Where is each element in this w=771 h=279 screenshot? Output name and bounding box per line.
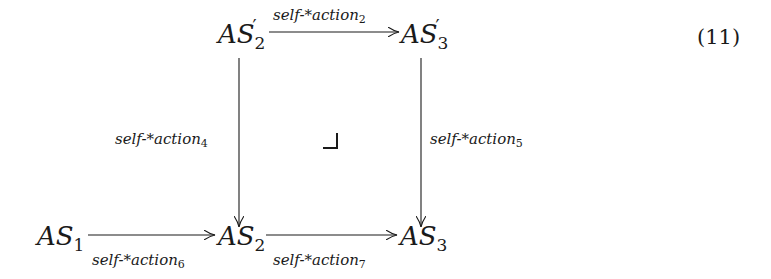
node-base: AS	[218, 221, 255, 251]
pullback-corner-icon	[323, 133, 337, 148]
label-left-edge: self-*action4	[115, 132, 208, 149]
node-base: AS	[400, 221, 437, 251]
node-base: AS	[401, 19, 438, 49]
edge-label-text: self-*action	[115, 130, 201, 148]
edge-label-text: self-*action	[273, 6, 359, 24]
label-right-edge: self-*action5	[430, 132, 523, 149]
edge-label-subscript: 5	[516, 137, 523, 150]
label-bottom-left-edge: self-*action6	[92, 253, 185, 270]
node-subscript: 2	[255, 235, 266, 255]
node-as3-prime: AS′3	[401, 21, 440, 47]
edge-label-text: self-*action	[92, 251, 178, 269]
node-as3: AS3	[400, 223, 447, 254]
node-subscript: 1	[74, 235, 85, 255]
node-base: AS	[218, 19, 255, 49]
edge-label-subscript: 4	[201, 137, 208, 150]
node-subscript: 2	[255, 35, 266, 52]
edge-label-text: self-*action	[273, 251, 359, 269]
label-top-edge: self-*action2	[273, 8, 366, 25]
edge-label-subscript: 2	[359, 13, 366, 26]
label-bottom-right-edge: self-*action7	[273, 253, 366, 270]
node-subscript: 3	[437, 235, 448, 255]
node-as2-prime: AS′2	[218, 21, 257, 47]
edge-label-subscript: 6	[178, 258, 185, 271]
edge-label-subscript: 7	[359, 258, 366, 271]
node-base: AS	[37, 221, 74, 251]
edge-label-text: self-*action	[430, 130, 516, 148]
equation-number: (11)	[697, 25, 740, 49]
node-subscript: 3	[438, 35, 449, 52]
node-as1: AS1	[37, 223, 84, 254]
node-as2: AS2	[218, 223, 265, 254]
